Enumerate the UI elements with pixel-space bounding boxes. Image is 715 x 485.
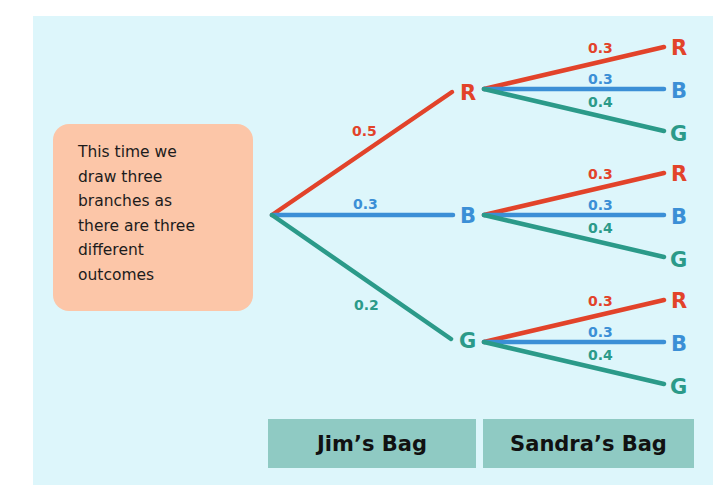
prob-sandra-red: 0.3 (588, 166, 613, 182)
prob-jim-green: 0.2 (354, 297, 379, 313)
prob-sandra-red: 0.3 (588, 40, 613, 56)
leaf-B: B (671, 79, 687, 103)
leaf-R: R (671, 162, 687, 186)
sandras-bag-label: Sandra’s Bag (483, 419, 694, 468)
node-jim-R: R (460, 81, 476, 105)
branch-sandra-green (484, 89, 664, 131)
node-jim-B: B (460, 204, 476, 228)
leaf-B: B (671, 332, 687, 356)
prob-sandra-green: 0.4 (588, 94, 613, 110)
leaf-G: G (670, 248, 687, 272)
second-level-from-R: 0.3 0.3 0.4 R B G (484, 36, 687, 146)
leaf-R: R (671, 36, 687, 60)
branch-jim-green (272, 215, 451, 339)
prob-sandra-green: 0.4 (588, 220, 613, 236)
prob-jim-red: 0.5 (352, 123, 377, 139)
leaf-R: R (671, 289, 687, 313)
branch-sandra-green (484, 215, 664, 257)
second-level-from-B: 0.3 0.3 0.4 R B G (484, 162, 687, 272)
branch-sandra-green (484, 342, 664, 384)
leaf-G: G (670, 122, 687, 146)
leaf-G: G (670, 375, 687, 399)
branch-sandra-red (484, 47, 664, 89)
node-jim-G: G (459, 329, 476, 353)
branch-sandra-red (484, 173, 664, 215)
leaf-B: B (671, 205, 687, 229)
prob-sandra-blue: 0.3 (588, 324, 613, 340)
prob-sandra-green: 0.4 (588, 347, 613, 363)
second-level-from-G: 0.3 0.3 0.4 R B G (484, 289, 687, 399)
prob-sandra-blue: 0.3 (588, 197, 613, 213)
branch-sandra-red (484, 300, 664, 342)
jims-bag-label: Jim’s Bag (268, 419, 476, 468)
prob-jim-blue: 0.3 (353, 196, 378, 212)
prob-sandra-red: 0.3 (588, 293, 613, 309)
tree-diagram: 0.5 0.3 0.2 R B G 0.3 0.3 0.4 R B G 0.3 … (0, 0, 715, 485)
prob-sandra-blue: 0.3 (588, 71, 613, 87)
